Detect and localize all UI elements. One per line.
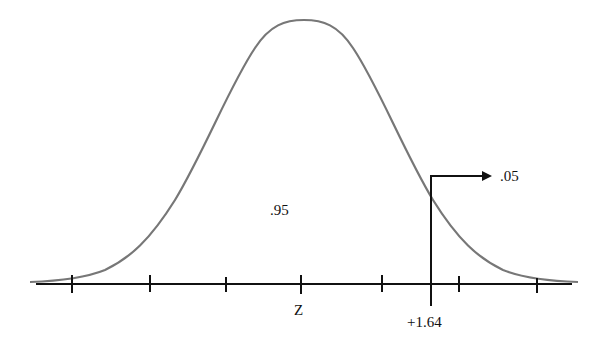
center-area-label: .95 (270, 202, 289, 219)
critical-value-label: +1.64 (407, 314, 442, 331)
normal-curve-diagram: .95 .05 Z +1.64 (0, 0, 599, 344)
tail-area-label: .05 (500, 168, 519, 185)
arrow-head-icon (482, 171, 492, 181)
bell-curve (30, 20, 578, 282)
axis-label: Z (294, 302, 303, 319)
